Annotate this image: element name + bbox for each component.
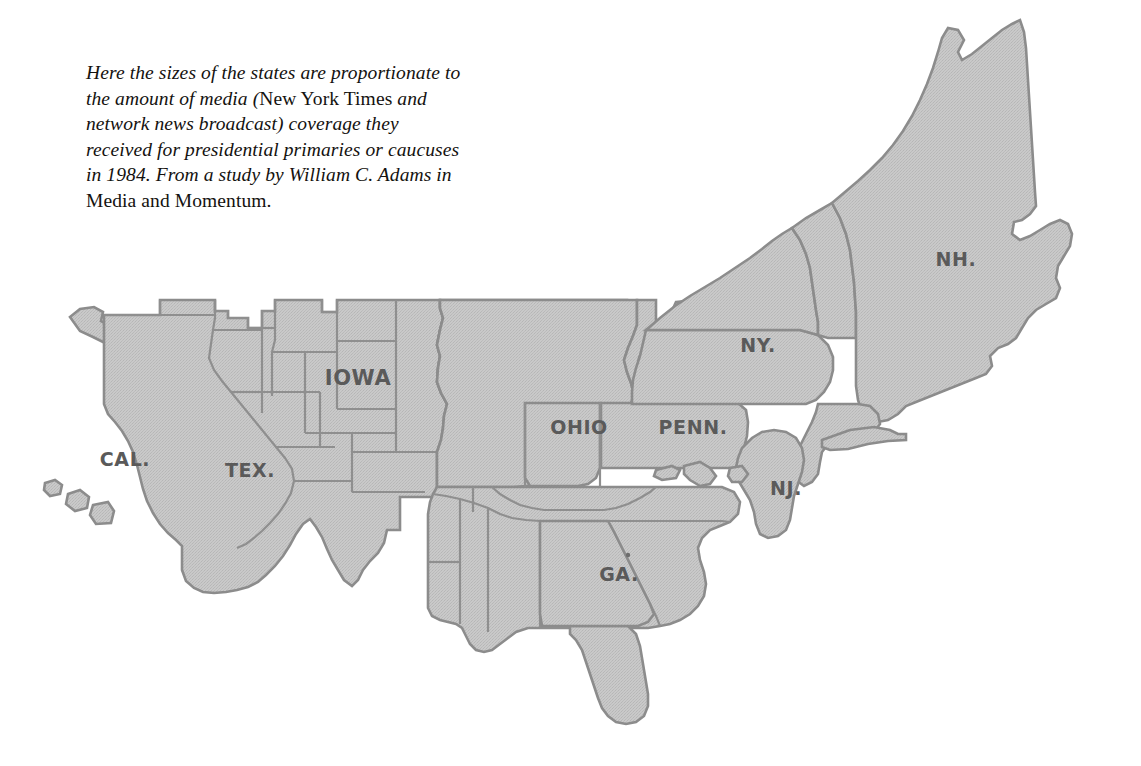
state-label-tex: TEX.: [225, 459, 275, 481]
state-hawaii-2: [66, 490, 89, 511]
figure-caption: Here the sizes of the states are proport…: [86, 60, 516, 214]
caption-text: Here the sizes of the states are proport…: [86, 62, 460, 83]
state-label-ga: GA.: [599, 563, 639, 585]
figure-page: IOWA CAL. TEX. OHIO PENN. NY. NJ. NH. GA…: [0, 0, 1141, 766]
state-label-nh: NH.: [936, 248, 977, 270]
caption-line: the amount of media (New York Times and: [86, 86, 516, 112]
delaware-maryland-fragment-3: [728, 466, 748, 482]
state-label-ny: NY.: [740, 334, 776, 356]
state-new-york: [632, 330, 833, 404]
caption-line: Media and Momentum.: [86, 188, 516, 214]
state-hawaii-1: [44, 480, 62, 496]
state-label-penn: PENN.: [659, 416, 728, 438]
state-florida: [570, 626, 648, 724]
state-label-nj: NJ.: [770, 477, 802, 499]
caption-publication-name: New York Times: [259, 88, 392, 109]
state-label-cal: CAL.: [100, 448, 150, 470]
new-york-north-extension: [646, 228, 818, 335]
caption-line: received for presidential primaries or c…: [86, 137, 516, 163]
state-label-ohio: OHIO: [550, 416, 608, 438]
caption-book-title: Media and Momentum.: [86, 190, 272, 211]
caption-text: in 1984. From a study by William C. Adam…: [86, 164, 452, 185]
caption-line: in 1984. From a study by William C. Adam…: [86, 162, 516, 188]
caption-text: and: [392, 88, 427, 109]
georgia-city-dot: [626, 553, 630, 557]
caption-text: network news broadcast) coverage they: [86, 113, 399, 134]
state-hawaii-3: [90, 502, 114, 524]
caption-text: received for presidential primaries or c…: [86, 139, 459, 160]
caption-text: the amount of media (: [86, 88, 259, 109]
state-new-hampshire: [832, 20, 1072, 422]
state-label-iowa: IOWA: [325, 366, 392, 390]
caption-line: network news broadcast) coverage they: [86, 111, 516, 137]
caption-line: Here the sizes of the states are proport…: [86, 60, 516, 86]
